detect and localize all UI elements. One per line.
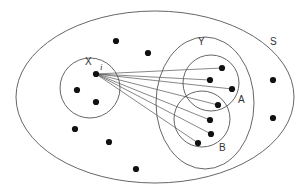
label-Y: Y bbox=[198, 36, 205, 47]
point-y-1 bbox=[207, 77, 213, 83]
point-s-4 bbox=[133, 166, 139, 172]
points-layer bbox=[72, 38, 276, 172]
point-y-3 bbox=[215, 102, 221, 108]
point-s-5 bbox=[270, 77, 276, 83]
sets-layer bbox=[16, 11, 294, 183]
point-y-5 bbox=[208, 131, 214, 137]
set-a-boundary bbox=[183, 55, 239, 111]
point-x-0 bbox=[74, 87, 80, 93]
point-y-0 bbox=[219, 65, 225, 71]
point-y-6 bbox=[195, 140, 201, 146]
point-i bbox=[93, 71, 99, 77]
point-x-1 bbox=[93, 99, 99, 105]
point-s-6 bbox=[270, 115, 276, 121]
point-s-2 bbox=[72, 126, 78, 132]
point-s-3 bbox=[106, 139, 112, 145]
label-B: B bbox=[219, 142, 226, 153]
set-x-boundary bbox=[60, 58, 120, 118]
set-diagram: S X Y A B i bbox=[0, 0, 305, 192]
point-s-0 bbox=[113, 38, 119, 44]
edge-i-to-y-5 bbox=[96, 74, 211, 134]
edge-i-to-y-1 bbox=[96, 74, 210, 80]
diagram-svg: S X Y A B i bbox=[0, 0, 305, 192]
edge-i-to-y-3 bbox=[96, 74, 218, 105]
label-S: S bbox=[270, 36, 277, 47]
set-s-boundary bbox=[16, 11, 294, 183]
point-y-2 bbox=[229, 86, 235, 92]
label-X: X bbox=[85, 56, 92, 67]
edge-i-to-y-4 bbox=[96, 74, 210, 120]
label-A: A bbox=[238, 94, 245, 105]
point-s-1 bbox=[145, 50, 151, 56]
label-i: i bbox=[100, 62, 103, 72]
point-y-4 bbox=[207, 117, 213, 123]
